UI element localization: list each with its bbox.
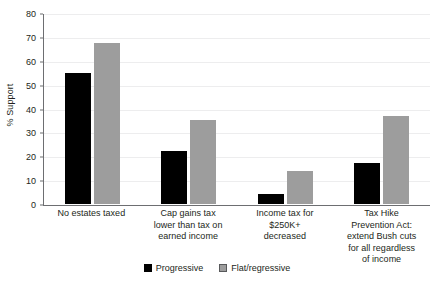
bar-group (44, 14, 141, 204)
x-category-label-line: Income tax for (239, 208, 332, 220)
x-category-label-line: Cap gains tax (142, 208, 235, 220)
bar-group (334, 14, 431, 204)
bars-layer (44, 14, 430, 204)
y-tick-label: 40 (26, 105, 36, 115)
bar-progressive (258, 194, 284, 204)
x-category-label-line: Tax Hike (335, 208, 428, 220)
plot-canvas (43, 14, 430, 206)
y-tick-label: 30 (26, 128, 36, 138)
plot-area: 01020304050607080 (20, 14, 430, 206)
bar-flat-regressive (94, 43, 120, 204)
legend-item[interactable]: Progressive (144, 263, 204, 273)
bar-group (141, 14, 238, 204)
x-category-label: Tax HikePrevention Act:extend Bush cutsf… (333, 208, 430, 266)
bar-chart: % Support 01020304050607080 No estates t… (0, 0, 434, 292)
x-axis-category-labels: No estates taxedCap gains taxlower than … (43, 208, 430, 266)
x-category-label: No estates taxed (43, 208, 140, 266)
bar-progressive (161, 151, 187, 204)
x-category-label-line: extend Bush cuts (335, 231, 428, 243)
x-category-label-line: decreased (239, 231, 332, 243)
bar-flat-regressive (383, 116, 409, 204)
y-axis-title: % Support (0, 0, 20, 210)
legend-label: Progressive (156, 263, 204, 273)
bar-progressive (354, 163, 380, 204)
bar-progressive (65, 73, 91, 204)
gray-square-icon (219, 264, 227, 272)
bar-group (237, 14, 334, 204)
y-tick-label: 60 (26, 57, 36, 67)
black-square-icon (144, 264, 152, 272)
x-category-label: Cap gains taxlower than tax onearned inc… (140, 208, 237, 266)
y-tick-label: 20 (26, 152, 36, 162)
x-category-label: Income tax for$250K+decreased (237, 208, 334, 266)
y-tick-label: 10 (26, 176, 36, 186)
y-tick-label: 70 (26, 33, 36, 43)
y-tick-label: 80 (26, 9, 36, 19)
bar-flat-regressive (287, 171, 313, 204)
y-tick-label: 0 (31, 200, 36, 210)
x-category-label-line: lower than tax on (142, 220, 235, 232)
x-category-label-line: for all regardless (335, 243, 428, 255)
legend-label: Flat/regressive (231, 263, 290, 273)
y-axis-title-text: % Support (5, 84, 15, 127)
x-category-label-line: earned income (142, 231, 235, 243)
chart-legend: ProgressiveFlat/regressive (0, 263, 434, 273)
bar-flat-regressive (190, 120, 216, 204)
x-category-label-line: No estates taxed (45, 208, 138, 220)
y-tick-label: 50 (26, 81, 36, 91)
x-category-label-line: Prevention Act: (335, 220, 428, 232)
legend-item[interactable]: Flat/regressive (219, 263, 290, 273)
x-category-label-line: $250K+ (239, 220, 332, 232)
y-axis-ticks: 01020304050607080 (20, 14, 40, 206)
